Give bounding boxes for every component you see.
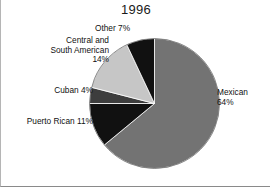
pie-label-other: Other 7% (95, 24, 130, 34)
pie-slice-group (90, 38, 220, 168)
pie-label-cuban: Cuban 4% (21, 86, 93, 96)
pie-label-puerto-rican: Puerto Rican 11% (3, 117, 93, 127)
pie-chart-figure: 1996 Other 7% Central and South American… (0, 0, 270, 187)
pie-label-central-south-american: Central and South American 14% (19, 36, 109, 65)
pie-label-mexican: Mexican 64% (217, 88, 269, 107)
